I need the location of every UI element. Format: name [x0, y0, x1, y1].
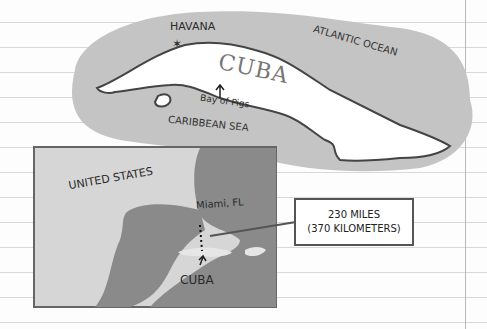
label-cuba-inset: CUBA	[180, 273, 214, 287]
label-havana: HAVANA	[170, 20, 215, 33]
isle-of-youth	[155, 94, 170, 106]
distance-callout: 230 MILES (370 KILOMETERS)	[294, 198, 414, 246]
distance-miles: 230 MILES	[328, 208, 380, 222]
distance-kilometers: (370 KILOMETERS)	[307, 222, 400, 236]
map-illustration: ✶	[0, 0, 487, 329]
havana-star-icon: ✶	[172, 37, 182, 51]
